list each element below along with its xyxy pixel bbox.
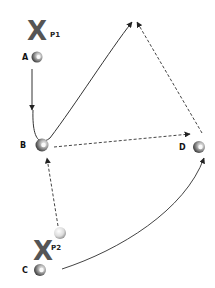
player-x-mark-p1: X xyxy=(27,18,46,44)
cone-label-b: B xyxy=(20,142,26,150)
player-label-p1: P1 xyxy=(50,32,60,39)
run-arrow-b-to-apex xyxy=(33,22,132,141)
pass-arrow-b-to-d xyxy=(54,134,190,147)
pass-arrow-p2-to-b xyxy=(47,158,58,226)
cone-label-d: D xyxy=(179,144,186,152)
cone-b xyxy=(36,139,49,152)
drill-diagram: X P1 X P2 A B C D xyxy=(0,0,215,288)
player-label-p2: P2 xyxy=(51,245,61,252)
ball-icon xyxy=(54,227,66,239)
run-arrow-c-to-d xyxy=(62,158,204,269)
cone-label-a: A xyxy=(22,54,28,62)
pass-arrow-d-to-apex xyxy=(137,22,202,133)
cone-a xyxy=(32,52,43,63)
cone-label-c: C xyxy=(22,267,28,275)
player-x-mark-p2: X xyxy=(33,238,52,264)
cone-d xyxy=(193,141,205,153)
